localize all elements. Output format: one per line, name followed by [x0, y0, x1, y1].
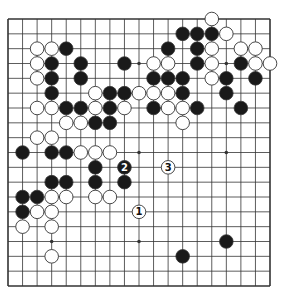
black-stone [147, 101, 161, 115]
white-stone [89, 146, 103, 160]
white-stone [249, 57, 263, 71]
white-stone [176, 116, 190, 130]
white-stone [161, 86, 175, 100]
black-stone [59, 101, 73, 115]
black-stone [190, 101, 204, 115]
white-stone [89, 86, 103, 100]
go-board-diagram: 123 [0, 0, 282, 294]
white-stone [132, 86, 146, 100]
black-stone [220, 235, 234, 249]
black-stone [234, 101, 248, 115]
black-stone [74, 72, 88, 86]
white-stone [30, 72, 44, 86]
black-stone [45, 146, 59, 160]
white-stone [30, 101, 44, 115]
black-stone [59, 175, 73, 189]
white-stone [74, 116, 88, 130]
black-stone [59, 146, 73, 160]
white-stone [30, 57, 44, 71]
star-point-icon [50, 240, 54, 244]
black-stone [89, 175, 103, 189]
white-stone [30, 42, 44, 56]
white-stone [45, 250, 59, 264]
black-stone [89, 161, 103, 175]
black-stone [16, 205, 30, 219]
white-stone [59, 116, 73, 130]
black-stone [118, 57, 132, 71]
black-stone [118, 86, 132, 100]
white-stone [205, 12, 219, 26]
numbered-move-1: 1 [132, 205, 146, 219]
star-point-icon [137, 151, 141, 155]
white-stone [263, 57, 277, 71]
black-stone [118, 175, 132, 189]
star-point-icon [137, 240, 141, 244]
white-stone [147, 57, 161, 71]
white-stone [249, 42, 263, 56]
black-stone [59, 42, 73, 56]
black-stone [220, 86, 234, 100]
black-stone [176, 27, 190, 41]
star-point-icon [225, 62, 229, 66]
black-stone [220, 72, 234, 86]
white-stone [30, 131, 44, 145]
move-number-label: 3 [165, 162, 172, 173]
white-stone [205, 72, 219, 86]
black-stone [161, 42, 175, 56]
white-stone [45, 42, 59, 56]
black-stone [176, 86, 190, 100]
black-stone [45, 57, 59, 71]
black-stone [249, 72, 263, 86]
white-stone [161, 101, 175, 115]
white-stone [45, 220, 59, 234]
black-stone [16, 146, 30, 160]
black-stone [74, 57, 88, 71]
numbered-move-2: 2 [118, 161, 132, 175]
move-number-label: 2 [121, 162, 128, 173]
black-stone [176, 250, 190, 264]
white-stone [45, 205, 59, 219]
white-stone [234, 42, 248, 56]
black-stone [30, 190, 44, 204]
black-stone [103, 116, 117, 130]
white-stone [59, 190, 73, 204]
white-stone [220, 27, 234, 41]
star-point-icon [137, 62, 141, 66]
white-stone [118, 101, 132, 115]
black-stone [176, 72, 190, 86]
black-stone [74, 101, 88, 115]
black-stone [103, 86, 117, 100]
white-stone [103, 190, 117, 204]
black-stone [45, 86, 59, 100]
white-stone [45, 131, 59, 145]
black-stone [16, 190, 30, 204]
black-stone [190, 27, 204, 41]
black-stone [205, 27, 219, 41]
white-stone [89, 101, 103, 115]
white-stone [45, 101, 59, 115]
white-stone [161, 57, 175, 71]
white-stone [45, 190, 59, 204]
white-stone [16, 220, 30, 234]
black-stone [234, 57, 248, 71]
black-stone [89, 116, 103, 130]
black-stone [161, 72, 175, 86]
black-stone [147, 72, 161, 86]
black-stone [45, 72, 59, 86]
black-stone [190, 57, 204, 71]
black-stone [190, 42, 204, 56]
white-stone [30, 205, 44, 219]
numbered-moves-layer: 123 [118, 161, 175, 219]
numbered-move-3: 3 [161, 161, 175, 175]
star-point-icon [225, 151, 229, 155]
white-stone [74, 146, 88, 160]
move-number-label: 1 [136, 206, 143, 217]
white-stone [205, 57, 219, 71]
white-stone [176, 101, 190, 115]
black-stone [103, 101, 117, 115]
white-stone [147, 86, 161, 100]
white-stone [205, 42, 219, 56]
white-stone [89, 190, 103, 204]
go-board: 123 [0, 0, 282, 294]
black-stone [45, 175, 59, 189]
